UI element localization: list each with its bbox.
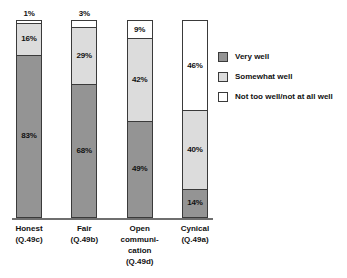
bar-segment[interactable]: 29%: [72, 27, 96, 84]
segment-value-label: 1%: [23, 10, 34, 18]
category-label-line: Open: [118, 223, 162, 234]
category-label-line: (Q.49a): [173, 234, 217, 245]
bar-segment[interactable]: 14%: [183, 189, 207, 217]
legend-label: Somewhat well: [235, 72, 292, 82]
category-label: Cynical(Q.49a): [173, 223, 217, 267]
bar-segment[interactable]: 49%: [128, 121, 152, 217]
bar-segment[interactable]: 16%: [17, 23, 41, 55]
legend-swatch: [218, 72, 228, 82]
bar-segment[interactable]: 40%: [183, 110, 207, 189]
category-label-line: cation: [118, 245, 162, 256]
segment-value-label: 9%: [134, 26, 145, 34]
plot-area: 1%16%83%3%29%68%9%42%49%46%40%14%: [12, 14, 212, 218]
segment-value-label: 3%: [79, 10, 90, 18]
bar-group: 1%16%83%: [14, 14, 44, 218]
legend-label: Not too well/not at all well: [235, 92, 333, 102]
category-label-line: (Q.49d): [118, 256, 162, 267]
segment-value-label: 40%: [187, 146, 202, 154]
bar-group: 46%40%14%: [180, 14, 210, 218]
category-label-line: Fair: [62, 223, 106, 234]
segment-value-label: 49%: [132, 165, 147, 173]
segment-value-label: 46%: [187, 62, 202, 70]
category-label: Fair(Q.49b): [62, 223, 106, 267]
category-label-line: (Q.49b): [62, 234, 106, 245]
category-label: Opencommuni-cation(Q.49d): [118, 223, 162, 267]
segment-value-label: 14%: [187, 199, 202, 207]
bar-segment[interactable]: 9%: [128, 21, 152, 38]
segment-value-label: 16%: [21, 35, 36, 43]
legend-item[interactable]: Very well: [218, 52, 346, 62]
stacked-bar-chart: 1%16%83%3%29%68%9%42%49%46%40%14% Honest…: [0, 0, 347, 278]
category-label-line: Honest: [7, 223, 51, 234]
legend-swatch: [218, 92, 228, 102]
segment-value-label: 42%: [132, 76, 147, 84]
chart-legend: Very wellSomewhat wellNot too well/not a…: [218, 52, 346, 112]
segment-value-label: 29%: [77, 52, 92, 60]
bars-row: 1%16%83%3%29%68%9%42%49%46%40%14%: [12, 14, 212, 218]
segment-value-label: 83%: [21, 132, 36, 140]
legend-item[interactable]: Somewhat well: [218, 72, 346, 82]
category-labels: Honest(Q.49c)Fair(Q.49b)Opencommuni-cati…: [12, 223, 212, 267]
bar-segment[interactable]: 46%: [183, 21, 207, 110]
legend-label: Very well: [235, 52, 269, 62]
bar-stack[interactable]: 46%40%14%: [182, 20, 208, 218]
bar-stack[interactable]: 9%42%49%: [127, 20, 153, 218]
bar-segment[interactable]: 83%: [17, 55, 41, 217]
category-label-line: Cynical: [173, 223, 217, 234]
bar-group: 3%29%68%: [69, 14, 99, 218]
segment-value-label: 68%: [77, 147, 92, 155]
x-axis-baseline: [12, 218, 213, 220]
bar-segment[interactable]: 68%: [72, 84, 96, 217]
legend-item[interactable]: Not too well/not at all well: [218, 92, 346, 102]
bar-segment[interactable]: 42%: [128, 38, 152, 120]
category-label: Honest(Q.49c): [7, 223, 51, 267]
bar-group: 9%42%49%: [125, 14, 155, 218]
category-label-line: (Q.49c): [7, 234, 51, 245]
legend-swatch: [218, 52, 228, 62]
bar-stack[interactable]: 1%16%83%: [16, 20, 42, 218]
category-label-line: communi-: [118, 234, 162, 245]
bar-stack[interactable]: 3%29%68%: [71, 20, 97, 218]
